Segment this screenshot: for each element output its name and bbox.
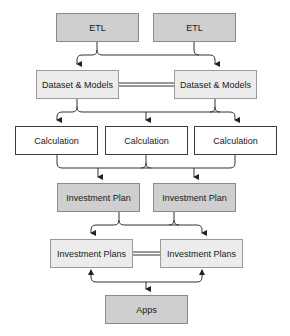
calculation-node-3-label: Calculation: [213, 136, 258, 146]
investment-plan-node-1: Investment Plan: [57, 183, 140, 212]
etl-node-2-label: ETL: [186, 23, 203, 33]
investment-plan-node-2: Investment Plan: [153, 183, 236, 212]
calculation-node-3: Calculation: [194, 126, 277, 155]
etl-node-1-label: ETL: [89, 23, 106, 33]
investment-plans-node-2-label: Investment Plans: [167, 249, 236, 259]
investment-plan-node-2-label: Investment Plan: [162, 193, 227, 203]
investment-plan-node-1-label: Investment Plan: [66, 193, 131, 203]
investment-plans-node-2: Investment Plans: [160, 239, 243, 268]
etl-node-1: ETL: [56, 13, 139, 42]
etl-node-2: ETL: [153, 13, 236, 42]
apps-node: Apps: [105, 295, 188, 324]
dataset-models-node-2: Dataset & Models: [174, 70, 257, 99]
investment-plans-node-1: Investment Plans: [50, 239, 133, 268]
architecture-diagram: ETL ETL Dataset & Models Dataset & Model…: [0, 0, 290, 336]
dataset-models-node-1-label: Dataset & Models: [42, 80, 113, 90]
dataset-models-node-1: Dataset & Models: [36, 70, 119, 99]
calculation-node-2-label: Calculation: [124, 136, 169, 146]
apps-node-label: Apps: [136, 305, 157, 315]
calculation-node-2: Calculation: [105, 126, 188, 155]
connector-lines: [0, 0, 290, 336]
calculation-node-1: Calculation: [15, 126, 98, 155]
calculation-node-1-label: Calculation: [34, 136, 79, 146]
dataset-models-node-2-label: Dataset & Models: [180, 80, 251, 90]
investment-plans-node-1-label: Investment Plans: [57, 249, 126, 259]
